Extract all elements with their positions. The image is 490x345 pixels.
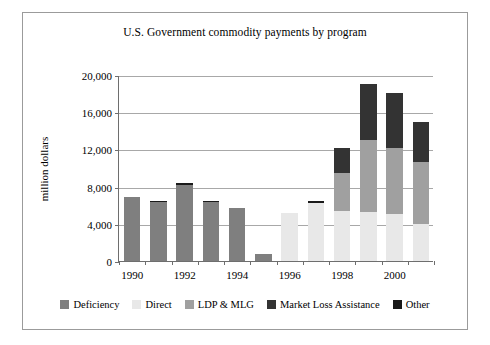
x-axis-tick-label: 1996 [279, 269, 301, 281]
stacked-bar[interactable] [281, 213, 297, 261]
bar-segment[interactable] [334, 211, 350, 261]
x-axis-tick-label: 1994 [226, 269, 248, 281]
x-axis-tick [408, 261, 409, 265]
x-axis-tick [119, 261, 120, 265]
bar-segment[interactable] [413, 224, 429, 261]
bar-group [281, 76, 297, 261]
stacked-bar[interactable] [203, 201, 219, 261]
bar-segment[interactable] [255, 254, 271, 261]
bar-group [229, 76, 245, 261]
legend-item[interactable]: LDP & MLG [185, 299, 254, 310]
bar-segment[interactable] [360, 84, 376, 140]
y-axis-tick-label: 8,000 [42, 182, 119, 194]
x-axis-tick [145, 261, 146, 265]
bar-group [150, 76, 166, 261]
x-axis-tick [224, 261, 225, 265]
legend-item[interactable]: Deficiency [60, 299, 119, 310]
bar-segment[interactable] [413, 162, 429, 224]
legend-swatch-icon [267, 300, 276, 309]
bar-group [255, 76, 271, 261]
bar-group [176, 76, 192, 261]
x-axis-tick [329, 261, 330, 265]
legend-label: Direct [145, 299, 171, 310]
legend-swatch-icon [132, 300, 141, 309]
bar-group [360, 76, 376, 261]
legend-item[interactable]: Other [393, 299, 430, 310]
bar-segment[interactable] [203, 202, 219, 261]
legend-label: LDP & MLG [198, 299, 254, 310]
bar-group [386, 76, 402, 261]
stacked-bar[interactable] [334, 148, 350, 261]
x-axis-tick-label: 1998 [331, 269, 353, 281]
stacked-bar[interactable] [360, 84, 376, 261]
legend-item[interactable]: Market Loss Assistance [267, 299, 380, 310]
legend-label: Deficiency [73, 299, 119, 310]
y-axis-tick-label: 0 [42, 256, 119, 268]
chart-title: U.S. Government commodity payments by pr… [22, 26, 468, 38]
x-axis-tick [198, 261, 199, 265]
x-axis-tick-label: 2000 [384, 269, 406, 281]
y-axis-tick-label: 4,000 [42, 219, 119, 231]
y-axis-tick-label: 12,000 [42, 144, 119, 156]
x-axis-tick [382, 261, 383, 265]
y-axis-tick-label: 20,000 [42, 70, 119, 82]
y-axis-tick-label: 16,000 [42, 107, 119, 119]
x-axis-tick-label: 1992 [174, 269, 196, 281]
y-axis-title: million dollars [36, 76, 52, 262]
bar-segment[interactable] [124, 197, 140, 261]
bar-group [308, 76, 324, 261]
legend-swatch-icon [185, 300, 194, 309]
bar-group [413, 76, 429, 261]
plot-area: 20,00016,00012,0008,0004,0000 1990199219… [118, 76, 433, 262]
stacked-bar[interactable] [255, 254, 271, 261]
legend-label: Market Loss Assistance [280, 299, 380, 310]
legend-swatch-icon [60, 300, 69, 309]
stacked-bar[interactable] [413, 122, 429, 261]
x-axis-tick [355, 261, 356, 265]
bar-segment[interactable] [413, 122, 429, 161]
x-axis-tick [303, 261, 304, 265]
x-axis-tick [172, 261, 173, 265]
bar-segment[interactable] [334, 173, 350, 211]
bar-segment[interactable] [360, 212, 376, 261]
bar-segment[interactable] [308, 203, 324, 261]
bar-group [124, 76, 140, 261]
bar-group [203, 76, 219, 261]
chart-figure: U.S. Government commodity payments by pr… [0, 0, 490, 345]
bar-group [334, 76, 350, 261]
stacked-bar[interactable] [386, 93, 402, 261]
bar-segment[interactable] [281, 213, 297, 261]
stacked-bar[interactable] [124, 197, 140, 261]
bar-series-layer [119, 76, 433, 261]
bar-segment[interactable] [360, 140, 376, 212]
bar-segment[interactable] [150, 202, 166, 261]
x-axis-tick [434, 261, 435, 265]
x-axis-tick-label: 1990 [121, 269, 143, 281]
bar-segment[interactable] [229, 208, 245, 261]
x-axis-tick [277, 261, 278, 265]
bar-segment[interactable] [386, 214, 402, 261]
legend-label: Other [406, 299, 430, 310]
stacked-bar[interactable] [308, 201, 324, 261]
bar-segment[interactable] [386, 93, 402, 149]
stacked-bar[interactable] [176, 183, 192, 261]
stacked-bar[interactable] [229, 208, 245, 261]
chart-legend: DeficiencyDirectLDP & MLGMarket Loss Ass… [22, 299, 468, 310]
bar-segment[interactable] [176, 185, 192, 261]
bar-segment[interactable] [386, 148, 402, 213]
bar-segment[interactable] [334, 148, 350, 173]
legend-swatch-icon [393, 300, 402, 309]
legend-item[interactable]: Direct [132, 299, 171, 310]
x-axis-tick [250, 261, 251, 265]
stacked-bar[interactable] [150, 201, 166, 261]
